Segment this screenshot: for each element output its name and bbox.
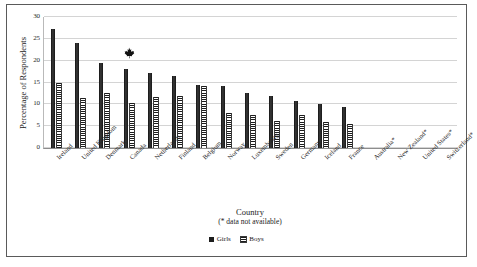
bar-category-group: [311, 17, 335, 148]
bar-boys: [226, 113, 232, 148]
bar-girls: [221, 86, 225, 148]
bar-category-group: [408, 17, 432, 148]
bar-category-group: [165, 17, 189, 148]
y-axis-tick-label: 30: [33, 12, 40, 20]
x-axis-tick-label-slot: United States*: [408, 151, 432, 207]
legend-entry: Girls: [209, 235, 231, 243]
x-axis-tick-label-slot: Denmark: [92, 151, 116, 207]
bar-category-group: [287, 17, 311, 148]
bar-girls: [294, 101, 298, 148]
x-axis-tick-label-slot: Germany: [287, 151, 311, 207]
x-axis-tick-label-slot: Norway: [214, 151, 238, 207]
x-axis-tick-label-slot: Switzerland*: [433, 151, 457, 207]
bar-category-group: [190, 17, 214, 148]
y-axis-title-label: Percentage of Respondents: [18, 37, 28, 129]
bar-girls: [148, 73, 152, 148]
x-axis-title-note: (* data not available): [43, 218, 457, 227]
x-axis-title: Country (* data not available): [43, 208, 457, 226]
x-axis-tick-label-slot: Netherlands: [140, 151, 164, 207]
y-axis-tick-label: 20: [33, 56, 40, 64]
bar-boys: [250, 115, 256, 148]
legend-label: Boys: [249, 235, 263, 243]
y-axis-tick-label: 15: [33, 78, 40, 86]
chart-legend: GirlsBoys: [7, 235, 466, 243]
y-axis-tick-label: 5: [37, 121, 40, 129]
x-axis-tick-label-slot: Sweden: [262, 151, 286, 207]
bar-girls: [196, 85, 200, 148]
bar-boys: [299, 115, 305, 148]
bar-category-group: [68, 17, 92, 148]
bar-boys: [347, 124, 353, 148]
x-axis-tick-label-slot: United Kingdom: [67, 151, 91, 207]
x-axis-tick-label-slot: Australia*: [360, 151, 384, 207]
legend-swatch: [240, 236, 247, 243]
maple-leaf-icon: [123, 47, 136, 60]
bar-girls: [245, 93, 249, 148]
y-axis-tick-label: 10: [33, 99, 40, 107]
bar-boys: [129, 103, 135, 148]
y-axis-tick-label: 0: [37, 143, 40, 151]
y-axis-tick-label: 25: [33, 34, 40, 42]
bar-girls: [124, 69, 128, 148]
bar-category-group: [141, 17, 165, 148]
x-axis-tick-label-slot: Finland: [165, 151, 189, 207]
bar-category-group: [433, 17, 457, 148]
bar-boys: [153, 97, 159, 148]
legend-label: Girls: [217, 235, 231, 243]
bar-category-group: [336, 17, 360, 148]
chart-figure: Percentage of Respondents 051015202530 I…: [6, 4, 467, 257]
bar-girls: [51, 29, 55, 148]
bar-girls: [342, 107, 346, 148]
bar-boys: [56, 83, 62, 148]
bar-boys: [201, 86, 207, 148]
x-axis-tick-label-slot: Luxembourg: [238, 151, 262, 207]
bar-category-group: [263, 17, 287, 148]
x-axis-tick-label-slot: Belgium: [189, 151, 213, 207]
bar-girls: [75, 43, 79, 148]
x-axis-tick-label-slot: New Zealand*: [384, 151, 408, 207]
bar-boys: [323, 122, 329, 148]
bar-category-group: [360, 17, 384, 148]
y-axis-title: Percentage of Respondents: [16, 17, 30, 149]
bar-boys: [80, 98, 86, 148]
bar-category-group: [238, 17, 262, 148]
bar-category-group: [214, 17, 238, 148]
legend-swatch: [209, 237, 214, 242]
x-axis-tick-label-slot: France: [335, 151, 359, 207]
bar-category-group: [44, 17, 68, 148]
x-axis-tick-label-slot: Canada: [116, 151, 140, 207]
bar-category-group: [117, 17, 141, 148]
legend-entry: Boys: [240, 235, 264, 243]
x-axis-tick-labels: IrelandUnited KingdomDenmarkCanadaNether…: [43, 151, 457, 207]
bar-category-group: [384, 17, 408, 148]
x-axis-tick-label-slot: Ireland: [43, 151, 67, 207]
x-axis-tick-label-slot: Iceland: [311, 151, 335, 207]
